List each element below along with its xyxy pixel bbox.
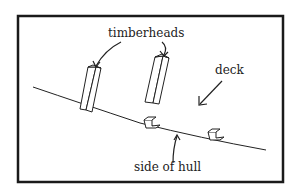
label-deck: deck	[215, 64, 244, 76]
label-timberheads: timberheads	[108, 27, 184, 39]
cleat-right	[208, 129, 224, 140]
timberhead-left	[80, 65, 101, 112]
timberhead-right	[145, 54, 169, 104]
arrow-deck	[199, 81, 222, 105]
arrow-hull	[173, 135, 180, 163]
cleat-left	[144, 117, 160, 128]
diagram: timberheads deck side of hull	[0, 0, 299, 191]
label-side-of-hull: side of hull	[134, 161, 201, 173]
